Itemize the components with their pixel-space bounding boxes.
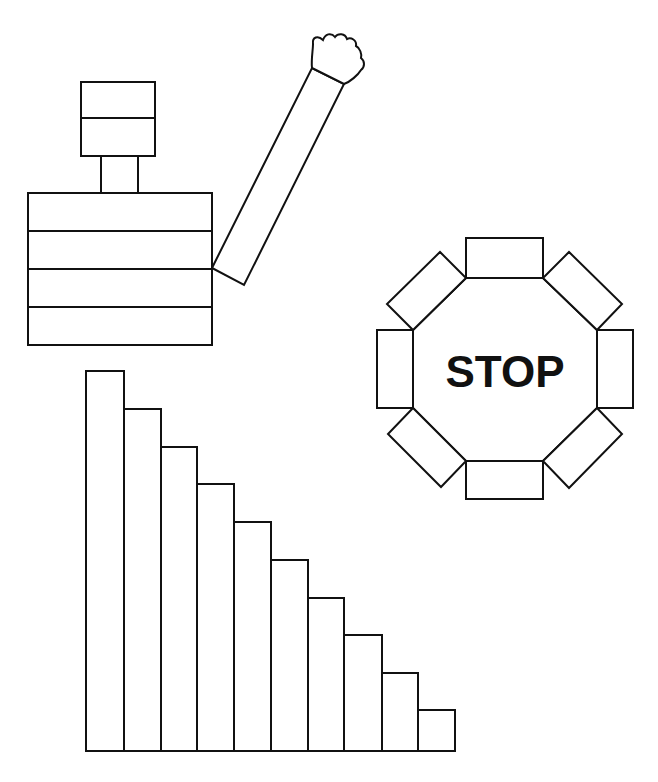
- stair-bar-7: [308, 598, 344, 751]
- stair-bar-5: [234, 522, 271, 751]
- figure: [28, 34, 364, 345]
- stair-bar-3: [161, 447, 197, 751]
- stair-bar-4: [197, 484, 234, 751]
- stop-rect-right: [597, 330, 633, 408]
- stair-bar-10: [418, 710, 455, 751]
- stair-bar-9: [382, 673, 418, 751]
- stop-sign: STOP: [377, 238, 633, 499]
- stop-rect-bottom: [466, 461, 543, 499]
- stair-bar-8: [344, 635, 382, 751]
- stair-bar-1: [86, 371, 124, 751]
- stop-rect-left: [377, 330, 413, 408]
- figure-neck: [101, 156, 138, 193]
- stair-bar-2: [124, 409, 161, 751]
- drawing-canvas: STOP: [0, 0, 658, 782]
- figure-arm: [212, 68, 344, 285]
- stop-rect-top: [466, 238, 543, 278]
- stair-bar-6: [271, 560, 308, 751]
- stop-label: STOP: [445, 347, 564, 396]
